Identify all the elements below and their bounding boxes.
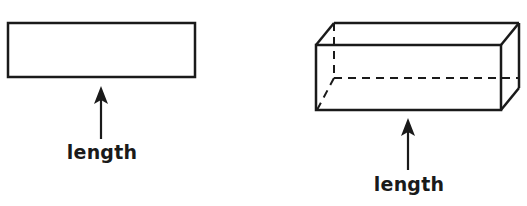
prism-visible-edges [316, 23, 519, 110]
rectangle-length-label: length [67, 141, 137, 163]
length-arrow-icon [94, 86, 108, 139]
diagram-canvas [0, 0, 527, 206]
prism-length-label: length [374, 173, 444, 195]
prism-hidden-edges [317, 23, 519, 110]
prism-figure [316, 23, 519, 170]
rectangle-figure [8, 23, 195, 139]
length-arrow-icon [401, 118, 415, 170]
rectangle-shape [8, 23, 195, 77]
